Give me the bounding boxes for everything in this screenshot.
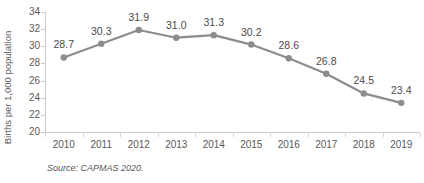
- data-point-label: 23.4: [385, 84, 417, 96]
- data-point-label: 30.3: [85, 25, 117, 37]
- source-note: Source: CAPMAS 2020.: [47, 163, 144, 173]
- data-point-label: 26.8: [310, 55, 342, 67]
- data-point-label: 28.6: [273, 39, 305, 51]
- data-point-label: 28.7: [48, 38, 80, 50]
- data-point-marker: [398, 100, 404, 106]
- data-point-marker: [136, 27, 142, 33]
- data-point-label: 31.0: [160, 19, 192, 31]
- chart-figure: Births per 1,000 population 202224262830…: [0, 0, 424, 183]
- series-polyline: [64, 30, 402, 103]
- data-point-marker: [98, 41, 104, 47]
- data-point-label: 31.3: [198, 16, 230, 28]
- data-point-label: 24.5: [348, 74, 380, 86]
- data-point-marker: [173, 35, 179, 41]
- data-point-marker: [323, 71, 329, 77]
- data-point-marker: [286, 55, 292, 61]
- data-point-label: 31.9: [123, 11, 155, 23]
- data-point-marker: [211, 32, 217, 38]
- data-point-marker: [61, 54, 67, 60]
- data-point-label: 30.2: [235, 26, 267, 38]
- data-point-marker: [248, 41, 254, 47]
- data-point-marker: [361, 90, 367, 96]
